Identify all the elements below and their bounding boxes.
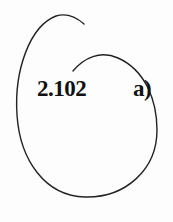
figure-canvas: 2.102 a) bbox=[0, 0, 173, 222]
figure-number: 2.102 bbox=[37, 76, 86, 102]
spiral-curve bbox=[0, 0, 173, 222]
figure-part-label: a) bbox=[133, 76, 151, 102]
